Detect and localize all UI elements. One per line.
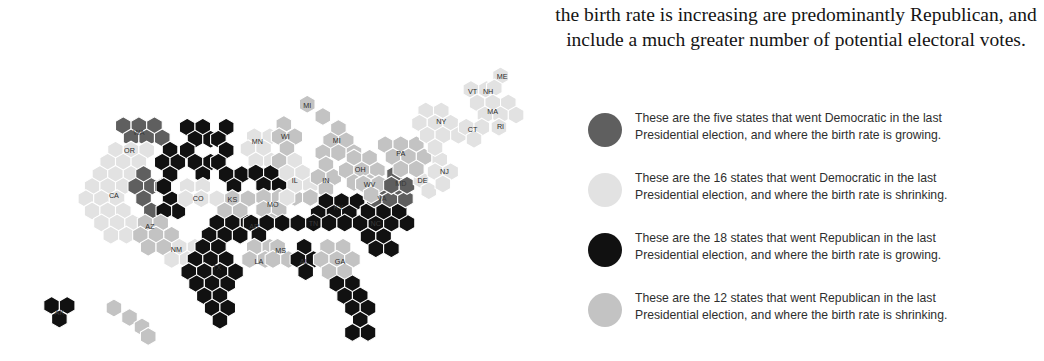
hex-tile xyxy=(466,130,482,148)
hex-tile xyxy=(360,323,376,341)
hex-tile xyxy=(399,176,415,194)
hex-tile xyxy=(368,240,384,258)
hex-tile xyxy=(384,240,400,258)
dem-shrinking-swatch xyxy=(588,173,622,207)
legend-line-2: Presidential election, and where the bir… xyxy=(635,127,1043,144)
state-hex-ri xyxy=(491,118,507,136)
hex-tile xyxy=(427,138,443,156)
state-hex-wa xyxy=(116,117,171,147)
hex-tile xyxy=(140,238,156,256)
hex-tile xyxy=(279,188,295,206)
intro-line-1: the birth rate is increasing are predomi… xyxy=(555,4,905,25)
dem-growing-swatch xyxy=(588,113,622,147)
hex-tile xyxy=(321,214,337,232)
hex-tile xyxy=(298,263,314,281)
legend-item-dem-growing: These are the five states that went Demo… xyxy=(588,110,1044,170)
hex-tile xyxy=(119,226,135,244)
state-hex-ak xyxy=(44,296,75,328)
legend-line-2: Presidential election, and where the bir… xyxy=(635,307,1043,324)
legend-line-1: These are the five states that went Demo… xyxy=(635,111,942,125)
legend-line-1: These are the 12 states that went Republ… xyxy=(635,291,936,305)
hex-tile xyxy=(193,190,209,208)
legend-item-label: These are the 18 states that went Republ… xyxy=(635,230,1043,263)
legend: These are the five states that went Demo… xyxy=(588,110,1044,350)
hex-tile xyxy=(299,95,315,113)
us-hex-cartogram: AKWAORCAAZCONMKSTXMNMOARLAMSWIILMIMIINOH… xyxy=(0,0,540,361)
hex-tile xyxy=(435,175,451,193)
hex-tile xyxy=(315,107,331,125)
hex-tile xyxy=(156,178,172,196)
hex-tile xyxy=(103,226,119,244)
state-hex-me xyxy=(486,67,508,97)
hex-tile xyxy=(106,299,122,317)
hex-tile xyxy=(265,251,281,269)
legend-item-label: These are the 16 states that went Democr… xyxy=(635,170,1043,203)
rep-shrinking-swatch xyxy=(588,293,622,327)
hex-tile xyxy=(421,182,437,200)
state-hex-ca xyxy=(78,165,140,244)
text-and-legend-panel: the birth rate is increasing are predomi… xyxy=(540,0,1044,361)
legend-item-dem-shrinking: These are the 16 states that went Democr… xyxy=(588,170,1044,230)
hex-tile xyxy=(345,323,361,341)
state-hex-hi xyxy=(106,299,156,345)
hex-tile xyxy=(491,118,507,136)
hex-tile xyxy=(242,251,258,269)
intro-line-3: potential electoral votes. xyxy=(835,29,1026,50)
rep-growing-swatch xyxy=(588,233,622,267)
state-hex-mi2 xyxy=(299,95,315,113)
legend-item-rep-shrinking: These are the 12 states that went Republ… xyxy=(588,290,1044,350)
state-hex-fl xyxy=(329,275,376,342)
legend-line-1: These are the 16 states that went Democr… xyxy=(635,171,936,185)
legend-item-label: These are the five states that went Demo… xyxy=(635,110,1043,143)
legend-line-2: Presidential election, and where the bir… xyxy=(635,247,1043,264)
hex-tile xyxy=(331,144,347,162)
intro-paragraph: the birth rate is increasing are predomi… xyxy=(548,2,1044,52)
hex-tile xyxy=(275,214,291,232)
hex-tile xyxy=(212,311,228,329)
hex-tile xyxy=(363,186,379,204)
hex-tile xyxy=(228,263,244,281)
hex-tile xyxy=(140,327,156,345)
hex-tile xyxy=(384,176,400,194)
hex-tile xyxy=(303,188,319,206)
hex-cartogram-panel: AKWAORCAAZCONMKSTXMNMOARLAMSWIILMIMIINOH… xyxy=(0,0,540,361)
legend-line-2: Presidential election, and where the bir… xyxy=(635,187,1043,204)
hex-tile xyxy=(393,160,409,178)
legend-item-label: These are the 12 states that went Republ… xyxy=(635,290,1043,323)
hex-tile xyxy=(409,160,425,178)
legend-line-1: These are the 18 states that went Republ… xyxy=(635,231,936,245)
state-hex-sc xyxy=(360,228,399,258)
legend-item-rep-growing: These are the 18 states that went Republ… xyxy=(588,230,1044,290)
state-hex-ct xyxy=(458,118,489,148)
hex-tile xyxy=(306,214,322,232)
hex-tile xyxy=(337,214,353,232)
state-hex-co xyxy=(178,178,225,208)
hex-tile xyxy=(508,106,524,124)
hex-tile xyxy=(164,251,180,269)
hex-tile xyxy=(290,214,306,232)
hex-tile xyxy=(178,190,194,208)
hex-tile xyxy=(52,310,68,328)
